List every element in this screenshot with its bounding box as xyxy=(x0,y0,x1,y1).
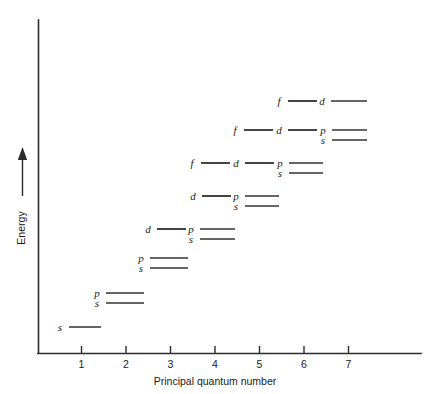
orbital-level: d xyxy=(145,223,186,235)
orbital-label: s xyxy=(321,134,325,146)
orbital-level: d xyxy=(233,157,274,169)
x-axis-ticks xyxy=(82,346,349,353)
orbital-level: s xyxy=(321,134,367,146)
orbital-levels: spspsdpsdpsfdpsfdpsfd xyxy=(58,95,367,333)
orbital-label: f xyxy=(190,157,195,169)
orbital-level: d xyxy=(319,95,367,107)
orbital-level: s xyxy=(189,233,235,245)
x-tick-label: 4 xyxy=(212,358,218,370)
orbital-level: p xyxy=(187,223,235,235)
x-axis-title: Principal quantum number xyxy=(154,375,277,387)
orbital-level: p xyxy=(232,190,279,202)
orbital-level: d xyxy=(190,190,231,202)
x-axis-tick-labels: 1 2 3 4 5 6 7 xyxy=(79,358,352,370)
orbital-label: s xyxy=(95,297,99,309)
orbital-label: d xyxy=(276,124,282,136)
orbital-label: d xyxy=(233,157,239,169)
energy-level-diagram: Energy 1 2 3 4 5 6 7 Principal quantum n… xyxy=(0,0,434,394)
orbital-level: p xyxy=(319,124,367,136)
orbital-level: f xyxy=(190,157,230,169)
orbital-label: s xyxy=(278,167,282,179)
orbital-level: s xyxy=(139,262,188,274)
orbital-level: p xyxy=(276,157,323,169)
x-tick-label: 7 xyxy=(346,358,352,370)
y-axis-title: Energy xyxy=(15,211,27,245)
orbital-level: s xyxy=(234,200,279,212)
orbital-label: d xyxy=(319,95,325,107)
orbital-level: f xyxy=(277,95,317,107)
x-tick-label: 5 xyxy=(257,358,263,370)
orbital-level: p xyxy=(93,287,144,299)
x-tick-label: 3 xyxy=(168,358,174,370)
orbital-label: d xyxy=(145,223,151,235)
orbital-label: s xyxy=(234,200,238,212)
orbital-level: p xyxy=(137,252,188,264)
energy-arrow-icon xyxy=(18,147,27,196)
chart-canvas: Energy 1 2 3 4 5 6 7 Principal quantum n… xyxy=(0,0,434,394)
x-tick-label: 1 xyxy=(79,358,85,370)
orbital-level: s xyxy=(95,297,144,309)
orbital-label: s xyxy=(58,321,62,333)
x-tick-label: 6 xyxy=(301,358,307,370)
orbital-level: s xyxy=(58,321,101,333)
orbital-level: f xyxy=(233,124,273,136)
orbital-level: d xyxy=(276,124,317,136)
orbital-label: f xyxy=(277,95,282,107)
orbital-label: d xyxy=(190,190,196,202)
orbital-label: s xyxy=(189,233,193,245)
orbital-label: s xyxy=(139,262,143,274)
orbital-label: f xyxy=(233,124,238,136)
orbital-level: s xyxy=(278,167,323,179)
x-tick-label: 2 xyxy=(123,358,129,370)
